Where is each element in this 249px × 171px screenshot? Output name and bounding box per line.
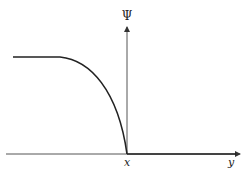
- diagram-canvas: Ψ x y: [0, 0, 249, 171]
- psi-curve: [13, 57, 127, 154]
- x-marker-label: x: [124, 156, 131, 169]
- psi-axis-label: Ψ: [122, 9, 133, 23]
- y-axis-label: y: [227, 156, 235, 169]
